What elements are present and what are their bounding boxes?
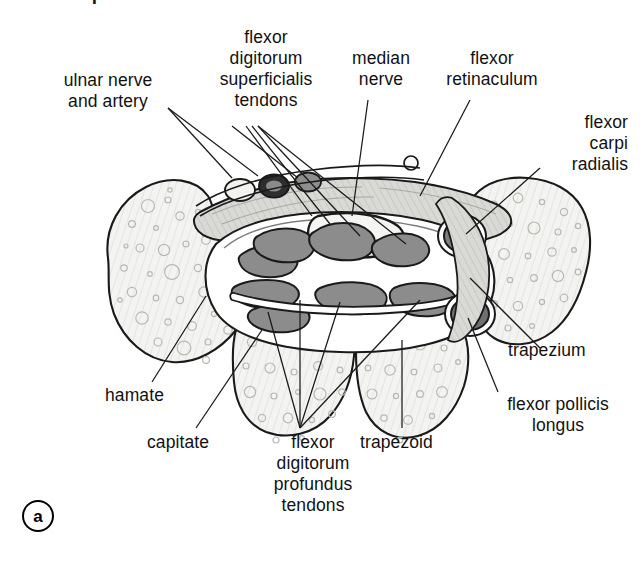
fds-tendon (254, 229, 315, 263)
label-flexor-digitorum-profundus-tendons: flexor digitorum profundus tendons (258, 432, 368, 516)
figure-marker-letter: a (33, 508, 42, 525)
label-capitate: capitate (147, 432, 247, 453)
label-trapezium: trapezium (508, 340, 638, 361)
label-ulnar-nerve-and-artery: ulnar nerve and artery (28, 70, 188, 112)
label-hamate: hamate (105, 385, 205, 406)
figure-marker-a: a (22, 500, 54, 532)
carpal-tunnel-figure: Carpal tunnel (0, 0, 643, 571)
label-flexor-retinaculum: flexor retinaculum (432, 48, 552, 90)
fds-tendon (372, 233, 429, 266)
label-flexor-digitorum-superficialis-tendons: flexor digitorum superficialis tendons (196, 27, 336, 111)
label-flexor-carpi-radialis: flexor carpi radialis (500, 112, 628, 175)
label-median-nerve: median nerve (336, 48, 426, 90)
label-flexor-pollicis-longus: flexor pollicis longus (478, 394, 638, 436)
label-trapezoid: trapezoid (360, 432, 470, 453)
